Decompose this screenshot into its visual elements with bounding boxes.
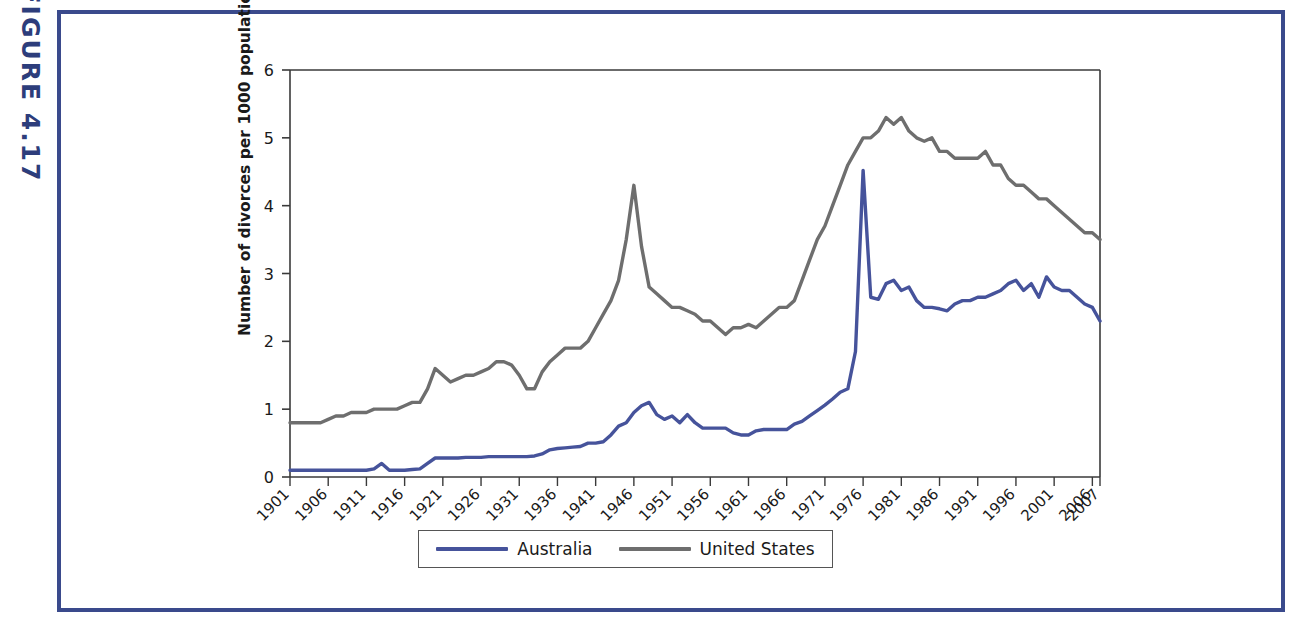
x-tick-label: 1961 xyxy=(712,485,752,525)
y-tick-label: 3 xyxy=(264,265,274,284)
x-tick-label: 1916 xyxy=(368,485,408,525)
x-tick-label: 1971 xyxy=(788,485,828,525)
series-line-australia xyxy=(290,170,1100,470)
x-tick-label: 1986 xyxy=(903,485,943,525)
x-tick-label: 1941 xyxy=(559,485,599,525)
x-tick-label: 1996 xyxy=(979,485,1019,525)
legend-label-australia: Australia xyxy=(517,539,592,559)
y-tick-label: 1 xyxy=(264,400,274,419)
x-tick-label: 1921 xyxy=(406,485,446,525)
x-tick-label: 1936 xyxy=(521,485,561,525)
chart-legend: Australia United States xyxy=(418,530,833,568)
x-tick-label: 1926 xyxy=(444,485,484,525)
x-tick-label: 1946 xyxy=(597,485,637,525)
chart-area: Number of divorces per 1000 population 0… xyxy=(57,10,1285,612)
x-tick-label: 1981 xyxy=(864,485,904,525)
legend-item-australia: Australia xyxy=(436,539,592,559)
legend-swatch-australia xyxy=(436,547,508,551)
x-tick-label: 1966 xyxy=(750,485,790,525)
y-tick-label: 5 xyxy=(264,129,274,148)
x-tick-label: 1906 xyxy=(291,485,331,525)
legend-item-united-states: United States xyxy=(619,539,815,559)
y-tick-label: 6 xyxy=(264,61,274,80)
y-tick-label: 0 xyxy=(264,468,274,487)
x-tick-label: 1976 xyxy=(826,485,866,525)
x-tick-label: 1911 xyxy=(330,485,370,525)
figure-root: FIGURE 4.17 Number of divorces per 1000 … xyxy=(0,0,1294,631)
x-tick-label: 1991 xyxy=(941,485,981,525)
legend-label-united-states: United States xyxy=(700,539,815,559)
y-tick-label: 4 xyxy=(264,197,274,216)
x-tick-label: 2001 xyxy=(1017,485,1057,525)
series-line-united-states xyxy=(290,117,1100,422)
y-tick-label: 2 xyxy=(264,332,274,351)
x-tick-label: 1956 xyxy=(673,485,713,525)
x-tick-label: 1901 xyxy=(253,485,293,525)
x-tick-label: 1931 xyxy=(482,485,522,525)
figure-number-label: FIGURE 4.17 xyxy=(0,0,60,300)
x-tick-label: 2007 xyxy=(1063,485,1103,525)
figure-number-text: FIGURE 4.17 xyxy=(16,0,45,267)
divorce-rate-line-chart: 0123456190119061911191619211926193119361… xyxy=(57,10,1285,612)
legend-swatch-united-states xyxy=(619,547,691,551)
x-tick-label: 1951 xyxy=(635,485,675,525)
